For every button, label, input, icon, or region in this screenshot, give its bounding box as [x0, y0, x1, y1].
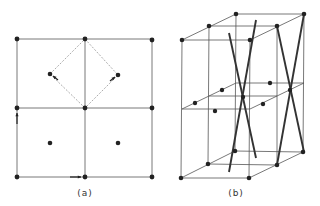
figure-b-3d-lattice — [179, 12, 307, 181]
middle-plane-point — [213, 109, 217, 113]
lattice-point — [150, 175, 155, 180]
lattice-point — [302, 12, 307, 17]
lattice-point — [180, 38, 185, 43]
lattice-point — [234, 12, 239, 17]
dashed-diamond-edge — [85, 39, 118, 75]
lattice-point — [83, 106, 88, 111]
lattice-point — [275, 163, 280, 168]
lattice-point — [247, 176, 252, 181]
plane-edge — [208, 164, 277, 165]
middle-plane-point — [261, 102, 265, 106]
vertical-edge — [181, 40, 182, 178]
lattice-point — [83, 37, 88, 42]
lattice-point — [206, 162, 211, 167]
lattice-point — [233, 149, 238, 154]
vertical-edge — [208, 26, 209, 164]
lattice-point — [15, 175, 20, 180]
arrow-head-icon — [15, 113, 18, 116]
lattice-point — [15, 106, 20, 111]
middle-plane-point — [288, 88, 292, 92]
middle-plane-point — [241, 95, 245, 99]
interior-point — [48, 72, 53, 77]
lattice-point — [83, 175, 88, 180]
lattice-point — [15, 37, 20, 42]
middle-plane-point — [193, 101, 197, 105]
lattice-point — [248, 38, 253, 43]
interior-point — [48, 141, 53, 146]
middle-plane-point — [268, 81, 272, 85]
lattice-point — [275, 24, 280, 29]
figure-a-label: (a) — [77, 188, 93, 198]
plane-edge — [235, 151, 303, 152]
dashed-diamond-edge — [85, 75, 118, 108]
figure-a-square-lattice — [15, 37, 155, 180]
arrow-head-icon — [78, 175, 81, 178]
middle-plane-point — [220, 88, 224, 92]
vertical-edge — [303, 14, 304, 152]
lattice-point — [150, 38, 155, 43]
lattice-point — [207, 24, 212, 29]
dashed-diamond-edge — [50, 74, 85, 108]
lattice-point — [301, 150, 306, 155]
figure-b-label: (b) — [228, 188, 244, 198]
interior-point — [116, 141, 121, 146]
dashed-diamond-edge — [50, 39, 85, 74]
lattice-point — [150, 106, 155, 111]
crystal-lattice-diagram — [0, 0, 320, 206]
interior-point — [116, 73, 121, 78]
lattice-point — [179, 176, 184, 181]
